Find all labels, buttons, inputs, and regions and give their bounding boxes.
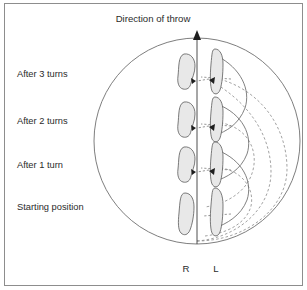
right-footprint-1turn [178,147,195,182]
right-footprint-3turns [178,54,195,89]
stage-label-after-1-turn: After 1 turn [17,160,63,170]
right-footprint-start [178,193,194,235]
stage-label-after-2-turns: After 2 turns [17,116,68,126]
left-footprint-start [210,188,223,236]
foot-label-left: L [213,263,219,274]
direction-arrowhead-icon [193,30,201,40]
figure-frame: Direction of throw After 3 turns After 2… [4,3,303,286]
right-footprint-2turns [178,102,195,137]
stage-label-starting-position: Starting position [17,202,84,212]
left-footprint-1turn [210,142,223,187]
figure-root: Direction of throw After 3 turns After 2… [0,0,307,290]
stage-label-after-3-turns: After 3 turns [17,69,68,79]
left-footprint-2turns [210,97,223,142]
arrowhead-right-3turns [191,78,196,84]
diagram-title: Direction of throw [116,13,191,24]
throwing-circle-diagram: Direction of throw After 3 turns After 2… [5,4,302,285]
left-footprint-group [210,49,223,236]
arrowhead-right-2turns [191,125,196,131]
foot-label-right: R [183,263,190,274]
left-footprint-3turns [210,49,223,94]
